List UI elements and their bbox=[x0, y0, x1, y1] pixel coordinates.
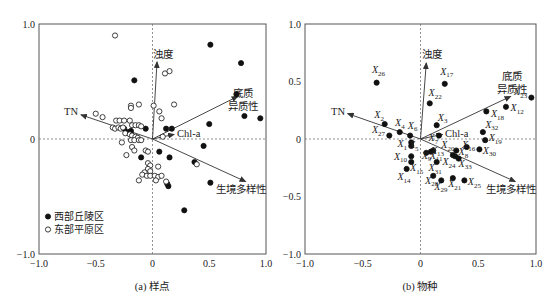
point-open bbox=[167, 69, 172, 74]
legend-marker bbox=[45, 214, 50, 219]
point-open bbox=[164, 179, 169, 184]
y-tick-label: −0.5 bbox=[283, 191, 301, 202]
point-filled bbox=[207, 121, 212, 126]
vector-label: Chl-a bbox=[445, 128, 469, 139]
vector-label: 生境多样性 bbox=[216, 183, 266, 195]
y-tick-label: −1.0 bbox=[283, 249, 301, 260]
y-tick-label: 0 bbox=[30, 134, 35, 145]
point-filled bbox=[182, 208, 187, 213]
species-label: X22 bbox=[428, 87, 443, 101]
caption-b: (b) 物种 bbox=[403, 280, 438, 293]
point-filled bbox=[484, 109, 489, 114]
vector-arrow-生境多样性 bbox=[153, 139, 246, 182]
point-open bbox=[132, 148, 137, 153]
species-label: X15 bbox=[409, 162, 424, 176]
x-tick-label: 0 bbox=[418, 258, 423, 269]
point-open bbox=[122, 118, 127, 123]
point-open bbox=[194, 162, 199, 167]
point-open bbox=[100, 115, 105, 120]
point-open bbox=[136, 102, 141, 107]
species-label: X12 bbox=[510, 102, 525, 116]
point-filled bbox=[442, 81, 447, 86]
x-tick-label: 1.0 bbox=[530, 258, 543, 269]
point-filled bbox=[132, 78, 137, 83]
vector-label: 浊度 bbox=[153, 48, 174, 60]
point-filled bbox=[483, 138, 488, 143]
vector-label: 浊度 bbox=[422, 48, 443, 60]
vector-label: 异质性 bbox=[228, 100, 258, 112]
species-label: X17 bbox=[439, 66, 454, 80]
x-tick-label: −1.0 bbox=[30, 258, 48, 269]
point-open bbox=[151, 103, 156, 108]
caption-a: (a) 样点 bbox=[135, 280, 169, 293]
point-open bbox=[157, 109, 162, 114]
point-filled bbox=[258, 116, 263, 121]
legend-marker bbox=[45, 227, 50, 232]
species-label: X5 bbox=[408, 139, 419, 153]
x-tick-label: 0 bbox=[150, 258, 155, 269]
species-label: X30 bbox=[482, 145, 497, 159]
y-tick-label: 0.5 bbox=[289, 76, 302, 87]
species-label: X18 bbox=[490, 108, 505, 122]
species-label: X2 bbox=[373, 109, 384, 123]
point-filled bbox=[503, 104, 508, 109]
y-tick-label: 0 bbox=[296, 134, 301, 145]
point-open bbox=[160, 134, 165, 139]
x-tick-label: −1.0 bbox=[296, 258, 314, 269]
panel-a-samples: −1.0−0.500.51.01.00−1.0浊度底质异质性TNChl-a生境多… bbox=[17, 19, 272, 270]
vector-label: Chl-a bbox=[177, 128, 201, 139]
vector-arrow-浊度 bbox=[421, 63, 427, 139]
point-filled bbox=[201, 143, 206, 148]
vector-label: 底质 bbox=[502, 70, 522, 82]
y-tick-label: 1.0 bbox=[289, 19, 302, 30]
point-open bbox=[139, 124, 144, 129]
point-filled bbox=[434, 159, 439, 164]
panel-b-species: −1.0−0.500.51.01.00.50−0.5−1.0浊度底质异质性TNC… bbox=[283, 19, 542, 270]
point-open bbox=[120, 125, 125, 130]
x-tick-label: 0.5 bbox=[472, 258, 485, 269]
point-filled bbox=[238, 61, 243, 66]
point-filled bbox=[169, 126, 174, 131]
point-filled bbox=[374, 80, 379, 85]
point-open bbox=[119, 140, 124, 145]
point-filled bbox=[139, 155, 144, 160]
point-filled bbox=[462, 178, 467, 183]
point-filled bbox=[434, 123, 439, 128]
point-filled bbox=[234, 92, 239, 97]
y-tick-label: −1.0 bbox=[17, 249, 35, 260]
point-filled bbox=[242, 113, 247, 118]
x-tick-label: 1.0 bbox=[260, 258, 273, 269]
point-filled bbox=[164, 126, 169, 131]
point-open bbox=[139, 138, 144, 143]
vector-label: TN bbox=[331, 106, 345, 117]
point-filled bbox=[409, 154, 414, 159]
species-label: X1 bbox=[396, 138, 407, 152]
point-open bbox=[171, 102, 176, 107]
species-label: X6 bbox=[407, 120, 418, 134]
point-open bbox=[156, 164, 161, 169]
vector-label: 生境多样性 bbox=[486, 183, 536, 195]
y-tick-label: 1.0 bbox=[23, 19, 36, 30]
species-label: X25 bbox=[467, 176, 482, 190]
point-open bbox=[153, 178, 158, 183]
legend-label: 西部丘陵区 bbox=[54, 210, 104, 222]
point-filled bbox=[408, 133, 413, 138]
point-filled bbox=[167, 155, 172, 160]
legend-label: 东部平原区 bbox=[54, 223, 104, 235]
point-filled bbox=[427, 101, 432, 106]
point-filled bbox=[387, 133, 392, 138]
point-filled bbox=[529, 95, 534, 100]
point-open bbox=[128, 105, 133, 110]
species-label: X10 bbox=[393, 151, 408, 165]
x-tick-label: −0.5 bbox=[87, 258, 105, 269]
point-open bbox=[124, 153, 129, 158]
biplot-canvas: −1.0−0.500.51.01.00−1.0浊度底质异质性TNChl-a生境多… bbox=[0, 0, 556, 296]
point-open bbox=[136, 178, 141, 183]
x-tick-label: 0.5 bbox=[203, 258, 216, 269]
point-open bbox=[159, 116, 164, 121]
point-filled bbox=[477, 147, 482, 152]
point-filled bbox=[480, 130, 485, 135]
species-label: X33 bbox=[458, 158, 473, 172]
vector-arrow-浊度 bbox=[153, 62, 158, 139]
point-open bbox=[159, 173, 164, 178]
